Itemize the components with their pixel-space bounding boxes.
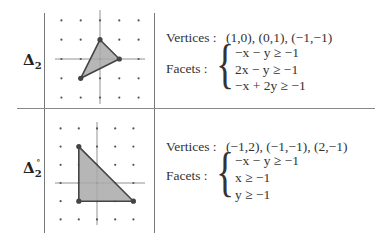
facet-inequality: x ≥ −1 bbox=[235, 170, 270, 186]
label-symbol: Δ bbox=[23, 51, 35, 69]
lattice-plot-delta2 bbox=[44, 0, 154, 108]
label-symbol: Δ bbox=[23, 159, 35, 177]
vertices-label: Vertices : bbox=[166, 139, 217, 155]
row-label-delta2: Δ2 bbox=[23, 51, 42, 71]
vertices-values: (1,0), (0,1), (−1,−1) bbox=[226, 30, 332, 46]
facet-inequality: −x − y ≥ −1 bbox=[235, 153, 299, 169]
vertices-label: Vertices : bbox=[166, 30, 217, 46]
label-subscript: 2 bbox=[35, 60, 42, 71]
facets-label: Facets : bbox=[166, 168, 208, 184]
left-brace: { bbox=[216, 145, 234, 199]
lattice-plot-delta2-dual bbox=[44, 109, 154, 234]
facet-inequality: 2x − y ≥ −1 bbox=[235, 62, 298, 78]
row-label-delta2-dual: Δ2∘ bbox=[23, 159, 42, 179]
label-subscript: 2 bbox=[35, 168, 42, 179]
facet-inequality: −x − y ≥ −1 bbox=[235, 45, 299, 61]
facet-inequality: −x + 2y ≥ −1 bbox=[235, 78, 306, 94]
left-brace: { bbox=[216, 37, 234, 91]
table-column-rule-right bbox=[154, 13, 155, 233]
facet-inequality: y ≥ −1 bbox=[235, 187, 270, 203]
label-superscript: ∘ bbox=[36, 155, 40, 165]
facets-label: Facets : bbox=[166, 61, 208, 77]
